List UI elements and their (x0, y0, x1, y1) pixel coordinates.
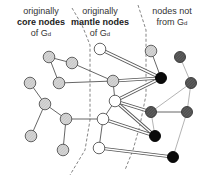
node-mantle (97, 113, 109, 125)
node-mid (107, 75, 119, 87)
core-label-sub: d (48, 31, 51, 37)
node-core (25, 130, 37, 142)
core-nodes-label: originally core nodes of Gd (10, 6, 72, 40)
node-black (168, 152, 179, 163)
node-black (150, 131, 161, 142)
node-core (43, 51, 55, 63)
mantle-nodes-label: originally mantle nodes of Gd (64, 6, 136, 40)
node-core (39, 98, 51, 110)
mantle-label-line3: of G (90, 28, 107, 38)
core-label-line2: core nodes (17, 17, 65, 27)
node-mantle (109, 95, 121, 107)
core-label-line1: originally (10, 6, 72, 17)
node-black (156, 73, 167, 84)
outside-label-line1: nodes not (142, 6, 202, 17)
node-mantle (93, 142, 105, 154)
edge (72, 63, 113, 81)
edge (173, 112, 187, 157)
node-core (60, 113, 72, 125)
node-core (24, 77, 36, 89)
outside-label-sub: d (184, 20, 187, 26)
mantle-label-line1: originally (64, 6, 136, 17)
outside-label-line2: from G (157, 17, 185, 27)
mantle-label-sub: d (107, 31, 110, 37)
outside-nodes-label: nodes not from Gd (142, 6, 202, 29)
node-core (66, 57, 78, 69)
node-mid (145, 45, 157, 57)
node-dark (146, 107, 157, 118)
node-dark (182, 107, 193, 118)
node-dark (175, 52, 186, 63)
node-mantle (94, 43, 106, 55)
mantle-label-line2: mantle nodes (71, 17, 129, 27)
node-dark (186, 78, 197, 89)
edge-double-inner (99, 148, 173, 157)
edge (59, 81, 113, 83)
core-label-line3: of G (31, 28, 48, 38)
node-core (53, 77, 65, 89)
node-core (57, 144, 69, 156)
